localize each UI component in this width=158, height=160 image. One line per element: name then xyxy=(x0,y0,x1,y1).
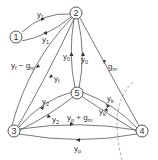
edge-2-1-bottom xyxy=(22,17,71,41)
edge-3-4-top xyxy=(20,125,136,130)
node-5: 5 xyxy=(71,87,83,99)
node-3: 3 xyxy=(8,125,20,137)
label-e34-top: yp + gm xyxy=(67,113,93,123)
edge-2-3-inner xyxy=(18,19,74,126)
label-e35-bottom: y2 xyxy=(52,115,59,125)
label-e54-top: yk xyxy=(107,94,114,104)
arrow-icon xyxy=(76,138,80,142)
edge-2-5-right xyxy=(78,19,82,88)
svg-text:1: 1 xyxy=(13,32,18,42)
node-1: 1 xyxy=(10,31,22,43)
arrow-icon xyxy=(49,74,53,78)
label-e25-right: y0 xyxy=(81,55,88,65)
label-e23-outer: yf − gm xyxy=(11,61,35,71)
label-e12-bottom: y1 xyxy=(42,35,49,45)
label-e12-top: y1 xyxy=(37,10,44,20)
edge-4-3-bottom xyxy=(19,134,137,140)
svg-text:2: 2 xyxy=(73,8,78,18)
arrow-icon xyxy=(70,52,74,56)
arrow-icon xyxy=(70,122,74,126)
label-e34-bottom: yp xyxy=(74,144,81,154)
label-e24: gm xyxy=(108,62,117,72)
label-e54-bottom: yk xyxy=(99,107,106,117)
label-e35-top: y2 xyxy=(42,97,49,107)
svg-text:5: 5 xyxy=(74,88,79,98)
admittance-graph-diagram: 1 2 3 4 5 y1 y1 yf − gm yf y0 y0 gm y2 y… xyxy=(0,0,158,160)
node-4: 4 xyxy=(136,125,148,137)
svg-text:4: 4 xyxy=(139,126,144,136)
node-2: 2 xyxy=(70,7,82,19)
label-e25-left: y0 xyxy=(63,52,70,62)
label-e23-inner: yf xyxy=(54,74,60,84)
svg-text:3: 3 xyxy=(11,126,16,136)
edge-2-4 xyxy=(80,18,139,126)
